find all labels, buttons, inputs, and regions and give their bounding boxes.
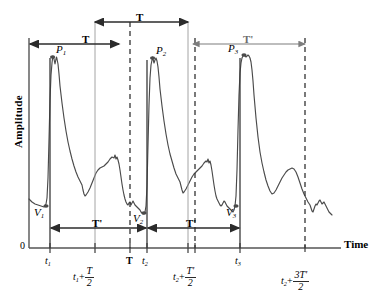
xtick-fraction-den-t1b: 2: [85, 278, 95, 289]
valley-letter-v1: V: [34, 206, 41, 218]
valley-label-v3: V3: [226, 207, 236, 220]
xtick-label-t2-plus-3Tprime-over-2: t2+3T'2: [281, 270, 309, 292]
xtick-fraction-t2b: T'2: [185, 266, 197, 288]
xtick-label-t1: t1: [45, 256, 51, 267]
valley-index-v3: 3: [233, 212, 236, 219]
bracket-label-upper-right-T-prime: T': [243, 34, 253, 45]
xtick-fraction-num-t2c: 3T': [293, 270, 310, 282]
xtick-fraction-num-t2b: T': [185, 266, 197, 278]
valley-label-v1: V1: [34, 207, 44, 220]
peak-label-p3: P3: [228, 43, 238, 56]
xtick-label-t3: t3: [235, 256, 241, 267]
peak-valley-dots: [43, 53, 246, 215]
origin-label: 0: [20, 241, 25, 251]
valley-letter-v2: V: [133, 212, 140, 224]
peak-label-p1: P1: [56, 44, 66, 57]
peak-letter-p2: P: [156, 44, 163, 56]
xtick-label-t2-plus-Tprime-over-2: t2+T'2: [173, 266, 196, 288]
axis-lines: [29, 38, 341, 248]
peak-label-p2: P2: [156, 45, 166, 58]
bracket-label-lower-left-T-prime: T': [92, 218, 102, 229]
xtick-fraction-t1b: T2: [85, 266, 95, 288]
peak-index-p3: 3: [235, 48, 238, 55]
xtick-label-T: T: [126, 256, 133, 266]
xtick-fraction-num-t1b: T: [85, 266, 95, 278]
xtick-index-t1: 1: [48, 260, 51, 267]
valley-letter-v3: V: [226, 206, 233, 218]
bracket-label-top-T: T: [136, 12, 143, 23]
xtick-fraction-den-t2b: 2: [185, 278, 197, 289]
peak-letter-p1: P: [56, 43, 63, 55]
bracket-label-upper-left-T: T: [82, 34, 89, 45]
peak-marker-lines: [50, 58, 240, 248]
valley-label-v2: V2: [133, 213, 143, 226]
peak-letter-p3: P: [228, 42, 235, 54]
xtick-index-t2: 2: [145, 260, 148, 267]
xtick-label-t1-plus-T-over-2: t1+T2: [73, 266, 94, 288]
xtick-index-t3: 3: [238, 260, 241, 267]
y-axis-title: Amplitude: [12, 95, 24, 148]
peak-index-p2: 2: [163, 50, 166, 57]
figure-canvas: Amplitude 0 Time T T T' T' T' P1 P2 P3 V…: [0, 0, 375, 296]
valley-index-v2: 2: [140, 218, 143, 225]
signal-waveform: [29, 55, 332, 215]
bracket-label-lower-right-T-prime: T': [186, 218, 196, 229]
x-axis-title: Time: [344, 239, 368, 250]
valley-index-v1: 1: [41, 212, 44, 219]
xtick-label-t2: t2: [142, 256, 148, 267]
xtick-fraction-den-t2c: 2: [293, 282, 310, 293]
peak-index-p1: 1: [63, 49, 66, 56]
xtick-fraction-t2c: 3T'2: [293, 270, 310, 292]
